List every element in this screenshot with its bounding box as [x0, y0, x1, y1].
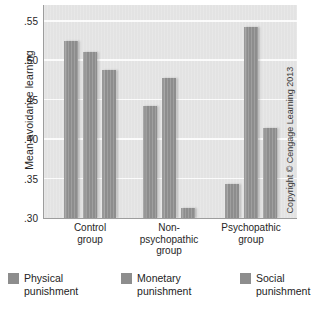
- gridline: [44, 59, 297, 61]
- x-axis-group-label-line: Non-: [124, 222, 214, 234]
- bar: [244, 27, 258, 218]
- legend-label-line: Monetary: [137, 272, 191, 285]
- legend-label: Socialpunishment: [256, 272, 310, 297]
- y-axis-tick-labels: .30.35.40.45.50.55: [0, 5, 44, 218]
- bar: [102, 70, 116, 218]
- y-axis-tick-label: .30: [0, 213, 38, 224]
- x-axis-group-label: Controlgroup: [45, 222, 135, 245]
- bar-chart-figure: Mean avoidance learning .30.35.40.45.50.…: [0, 0, 323, 311]
- chart-legend: PhysicalpunishmentMonetarypunishmentSoci…: [8, 272, 318, 297]
- x-axis-group-label-line: psychopathic: [124, 234, 214, 246]
- bar: [143, 106, 157, 218]
- bar: [181, 208, 195, 218]
- y-axis-tick-label: .40: [0, 134, 38, 145]
- legend-item[interactable]: Monetarypunishment: [121, 272, 240, 297]
- plot-area: [44, 5, 297, 218]
- bar: [225, 184, 239, 218]
- x-axis-group-label-line: Psychopathic: [206, 222, 296, 234]
- legend-label: Monetarypunishment: [137, 272, 191, 297]
- x-axis-group-label-line: Control: [45, 222, 135, 234]
- legend-item[interactable]: Socialpunishment: [240, 272, 318, 297]
- y-axis-tick-label: .55: [0, 15, 38, 26]
- legend-swatch-icon: [121, 273, 132, 284]
- bar: [83, 52, 97, 218]
- x-axis-group-label: Psychopathicgroup: [206, 222, 296, 245]
- gridline: [44, 20, 297, 22]
- legend-label-line: punishment: [137, 285, 191, 298]
- legend-label: Physicalpunishment: [24, 272, 78, 297]
- y-axis-tick-label: .35: [0, 173, 38, 184]
- x-axis-line: [43, 218, 297, 219]
- x-axis-group-label-line: group: [45, 234, 135, 246]
- bar: [162, 78, 176, 218]
- legend-item[interactable]: Physicalpunishment: [8, 272, 121, 297]
- copyright-notice: Copyright © Cengage Learning 2013: [285, 45, 295, 235]
- legend-label-line: punishment: [256, 285, 310, 298]
- bar: [263, 128, 277, 218]
- legend-swatch-icon: [240, 273, 251, 284]
- y-axis-tick-label: .45: [0, 94, 38, 105]
- y-axis-tick-label: .50: [0, 55, 38, 66]
- x-axis-group-label: Non-psychopathicgroup: [124, 222, 214, 257]
- bar: [64, 41, 78, 218]
- legend-swatch-icon: [8, 273, 19, 284]
- legend-label-line: punishment: [24, 285, 78, 298]
- x-axis-group-label-line: group: [124, 245, 214, 257]
- y-axis-line: [43, 5, 44, 219]
- x-axis-group-label-line: group: [206, 234, 296, 246]
- legend-label-line: Social: [256, 272, 310, 285]
- legend-label-line: Physical: [24, 272, 78, 285]
